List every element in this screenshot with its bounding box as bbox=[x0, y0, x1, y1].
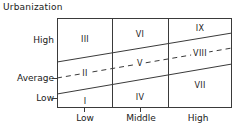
cell-label-v: V bbox=[135, 59, 145, 68]
cell-label-ii: II bbox=[80, 69, 89, 78]
y-axis-label-average: Average bbox=[17, 73, 54, 83]
cell-label-ix: IX bbox=[196, 24, 204, 33]
cell-label-iv: IV bbox=[136, 93, 144, 102]
cell-label-vi: VI bbox=[136, 30, 144, 39]
cell-label-iii: III bbox=[81, 35, 89, 44]
x-axis-labels: Low Middle High bbox=[57, 110, 232, 130]
x-axis-label-low: Low bbox=[76, 113, 94, 123]
cell-label-i: I bbox=[84, 97, 87, 106]
chart-title: Urbanization bbox=[3, 2, 63, 12]
x-axis-label-high: High bbox=[188, 113, 209, 123]
cell-label-viii: VIII bbox=[191, 49, 209, 58]
y-axis-labels: High Average Low bbox=[0, 18, 54, 108]
chart-plot-area: III VI IX II V VIII I IV VII bbox=[57, 18, 232, 108]
x-axis-label-middle: Middle bbox=[126, 113, 156, 123]
cell-label-vii: VII bbox=[194, 81, 205, 90]
y-axis-label-high: High bbox=[33, 35, 54, 45]
